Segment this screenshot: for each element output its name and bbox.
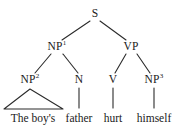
np2-triangle-icon <box>4 89 63 109</box>
edge-vp-to-np3 <box>137 54 150 73</box>
node-np2: NP2 <box>21 74 40 86</box>
node-np3: NP3 <box>145 74 164 86</box>
syntax-tree-figure: S NP1 VP NP2 N V NP3 The boy's father hu… <box>0 0 184 132</box>
node-n: N <box>75 74 84 86</box>
node-n-label: N <box>75 73 84 85</box>
node-np3-index: 3 <box>160 72 164 80</box>
terminal-the-boys: The boy's <box>11 113 56 125</box>
node-v-label: V <box>109 73 118 85</box>
node-np1-label: NP <box>48 40 63 52</box>
node-np1: NP1 <box>48 41 67 53</box>
node-s: S <box>92 8 99 20</box>
node-np2-index: 2 <box>36 72 40 80</box>
terminal-hurt: hurt <box>104 113 123 125</box>
node-np2-label: NP <box>21 73 36 85</box>
edge-vp-to-v <box>115 54 126 73</box>
terminal-himself: himself <box>137 113 172 125</box>
node-vp: VP <box>123 41 138 53</box>
terminal-father: father <box>66 113 93 125</box>
node-np1-index: 1 <box>63 39 67 47</box>
edge-s-to-vp <box>100 21 126 40</box>
node-vp-label: VP <box>123 40 138 52</box>
edge-np1-to-n <box>63 54 78 73</box>
node-v: V <box>109 74 118 86</box>
edge-np1-to-np2 <box>35 54 51 73</box>
edge-s-to-np1 <box>62 21 90 40</box>
node-np3-label: NP <box>145 73 160 85</box>
node-s-label: S <box>92 7 99 19</box>
